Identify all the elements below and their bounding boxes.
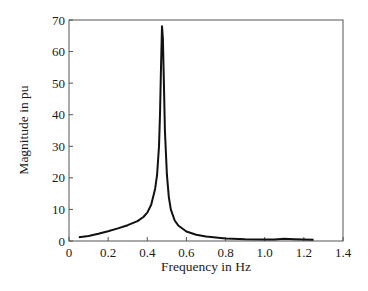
x-tick-label: 0.2: [100, 245, 116, 260]
x-tick-label: 1.4: [335, 245, 352, 260]
y-tick-label: 0: [59, 234, 66, 249]
x-tick-label: 1.2: [296, 245, 312, 260]
y-tick-label: 50: [52, 76, 65, 91]
y-tick-label: 10: [52, 202, 65, 217]
x-tick-label: 0.4: [139, 245, 156, 260]
y-axis-ticks: 010203040506070: [52, 13, 73, 249]
y-axis-label: Magnitude in pu: [16, 85, 31, 174]
y-tick-label: 20: [52, 170, 65, 185]
plot-frame: [69, 20, 343, 241]
x-tick-label: 0.8: [217, 245, 233, 260]
magnitude-curve: [79, 26, 314, 239]
x-tick-label: 0: [66, 245, 73, 260]
x-tick-label: 1.0: [257, 245, 273, 260]
y-tick-label: 70: [52, 13, 65, 28]
y-tick-label: 40: [52, 107, 65, 122]
x-axis-label: Frequency in Hz: [161, 259, 251, 274]
y-tick-label: 30: [52, 139, 65, 154]
x-tick-label: 0.6: [178, 245, 195, 260]
frequency-response-chart: 00.20.40.60.81.01.21.4 010203040506070 F…: [0, 0, 368, 291]
y-tick-label: 60: [52, 44, 65, 59]
